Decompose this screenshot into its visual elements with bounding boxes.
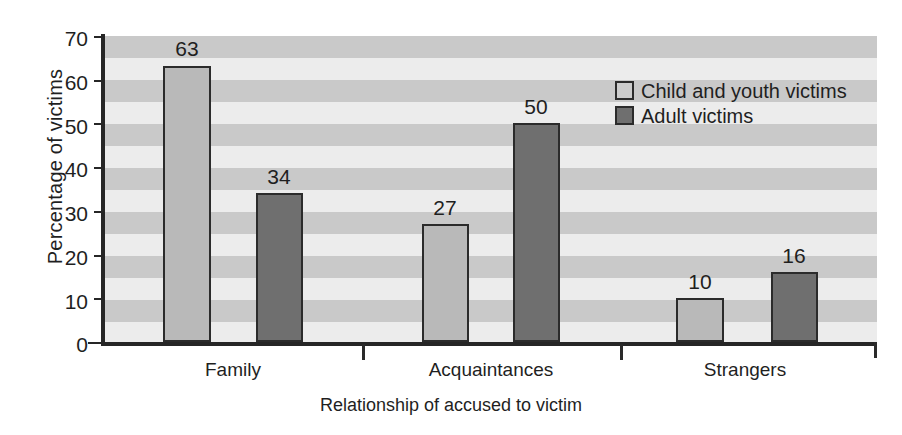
- legend-swatch-dark-icon: [615, 106, 634, 125]
- y-tick-label-60: 60: [42, 72, 88, 93]
- y-tick-label-50: 50: [42, 116, 88, 137]
- bar-value-acquaintances-adult: 50: [496, 96, 576, 117]
- bar-value-strangers-adult: 16: [754, 245, 834, 266]
- x-tick-label-family: Family: [153, 360, 313, 379]
- legend: Child and youth victims Adult victims: [615, 78, 847, 128]
- y-axis-line: [101, 34, 105, 344]
- chart-screenshot: Percentage of victims 70 60 50 40 30 20 …: [0, 0, 902, 435]
- bar-strangers-adult[interactable]: [771, 272, 818, 342]
- y-tick-label-30: 30: [42, 203, 88, 224]
- legend-swatch-light-icon: [615, 81, 634, 100]
- grid-band: [105, 212, 877, 234]
- x-axis-group-separator: [620, 344, 623, 360]
- grid-band: [105, 146, 877, 168]
- grid-band: [105, 190, 877, 212]
- bar-value-strangers-child: 10: [660, 271, 740, 292]
- grid-band: [105, 278, 877, 300]
- bar-family-adult[interactable]: [256, 193, 303, 342]
- y-tick-label-0: 0: [42, 334, 88, 355]
- x-tick-label-acquaintances: Acquaintances: [411, 360, 571, 379]
- y-tick-label-40: 40: [42, 159, 88, 180]
- legend-item-child-and-youth-victims[interactable]: Child and youth victims: [615, 78, 847, 103]
- y-tick-label-10: 10: [42, 291, 88, 312]
- bar-acquaintances-adult[interactable]: [513, 123, 560, 342]
- legend-item-adult-victims[interactable]: Adult victims: [615, 103, 847, 128]
- x-tick-label-strangers: Strangers: [665, 360, 825, 379]
- grid-band: [105, 168, 877, 190]
- x-axis-end-tick: [874, 342, 877, 358]
- y-tick-label-20: 20: [42, 247, 88, 268]
- bar-value-family-child: 63: [147, 38, 227, 59]
- bar-value-acquaintances-child: 27: [405, 197, 485, 218]
- x-axis-line: [101, 342, 877, 346]
- bar-value-family-adult: 34: [239, 166, 319, 187]
- bar-strangers-child[interactable]: [676, 298, 724, 342]
- legend-label-child-and-youth-victims: Child and youth victims: [641, 81, 847, 101]
- x-axis-group-separator: [362, 344, 365, 360]
- legend-label-adult-victims: Adult victims: [641, 106, 753, 126]
- y-tick-label-70: 70: [42, 28, 88, 49]
- grid-band: [105, 58, 877, 80]
- bar-family-child[interactable]: [163, 66, 211, 342]
- grid-band: [105, 300, 877, 322]
- bar-acquaintances-child[interactable]: [422, 224, 469, 342]
- grid-band: [105, 322, 877, 342]
- x-axis-title: Relationship of accused to victim: [0, 395, 902, 416]
